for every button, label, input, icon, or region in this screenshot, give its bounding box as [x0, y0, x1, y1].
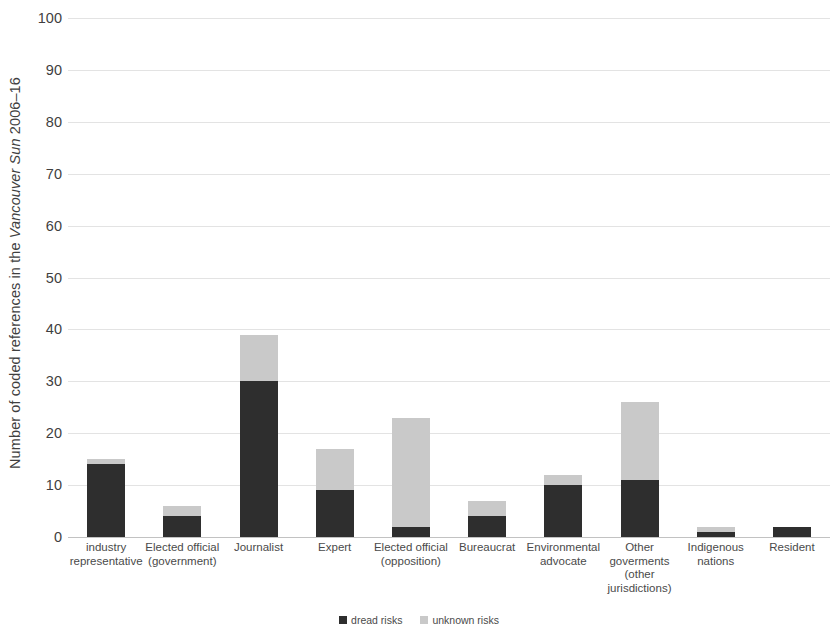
- y-tick-label: 20: [32, 425, 62, 441]
- bar-column: [144, 18, 220, 537]
- legend-item: dread risks: [339, 614, 402, 626]
- x-tick-label: Journalist: [220, 541, 296, 555]
- bar-segment-dread-risks: [621, 480, 659, 537]
- bar-column: [601, 18, 677, 537]
- bar-column: [220, 18, 296, 537]
- y-tick-label: 90: [32, 62, 62, 78]
- y-tick-label: 60: [32, 218, 62, 234]
- bar-stack: [544, 475, 582, 537]
- chart-legend: dread risksunknown risks: [0, 614, 838, 626]
- y-axis-title-text: Number of coded references in the Vancou…: [7, 77, 23, 469]
- bar-segment-dread-risks: [697, 532, 735, 537]
- stacked-bar-chart: Number of coded references in the Vancou…: [0, 0, 838, 637]
- legend-swatch-icon: [420, 616, 428, 624]
- bar-stack: [392, 418, 430, 537]
- x-tick-label: Resident: [754, 541, 830, 555]
- bar-stack: [240, 335, 278, 537]
- legend-item: unknown risks: [420, 614, 499, 626]
- bar-segment-dread-risks: [87, 464, 125, 537]
- bar-segment-unknown-risks: [163, 506, 201, 516]
- bar-series-container: [68, 18, 830, 537]
- y-tick-label: 30: [32, 373, 62, 389]
- x-tick-label: Other goverments (other jurisdictions): [601, 541, 677, 595]
- y-tick-label: 70: [32, 166, 62, 182]
- x-tick-label: industry representative: [68, 541, 144, 568]
- bar-column: [525, 18, 601, 537]
- bar-column: [68, 18, 144, 537]
- bar-segment-unknown-risks: [468, 501, 506, 517]
- bar-column: [449, 18, 525, 537]
- x-axis-tick-labels: industry representativeElected official …: [68, 541, 830, 611]
- bar-stack: [87, 459, 125, 537]
- bar-segment-dread-risks: [544, 485, 582, 537]
- y-axis-title-suffix: 2006–16: [7, 77, 23, 138]
- bar-segment-dread-risks: [773, 527, 811, 537]
- bar-stack: [316, 449, 354, 537]
- bar-column: [678, 18, 754, 537]
- bar-segment-unknown-risks: [316, 449, 354, 491]
- y-tick-label: 50: [32, 270, 62, 286]
- bar-stack: [621, 402, 659, 537]
- bar-stack: [697, 527, 735, 537]
- bar-column: [373, 18, 449, 537]
- bar-segment-dread-risks: [468, 516, 506, 537]
- y-tick-label: 0: [32, 529, 62, 545]
- y-tick-label: 100: [32, 10, 62, 26]
- x-tick-label: Expert: [297, 541, 373, 555]
- y-tick-label: 10: [32, 477, 62, 493]
- bar-segment-unknown-risks: [392, 418, 430, 527]
- legend-label: dread risks: [351, 614, 402, 626]
- bar-column: [297, 18, 373, 537]
- bar-stack: [468, 501, 506, 537]
- y-tick-label: 40: [32, 321, 62, 337]
- bar-segment-dread-risks: [316, 490, 354, 537]
- bar-segment-unknown-risks: [621, 402, 659, 480]
- x-tick-label: Elected official (opposition): [373, 541, 449, 568]
- y-axis-title-prefix: Number of coded references in the: [7, 238, 23, 469]
- bar-segment-dread-risks: [163, 516, 201, 537]
- bar-stack: [163, 506, 201, 537]
- x-tick-label: Environmental advocate: [525, 541, 601, 568]
- y-axis-title-italic: Vancouver Sun: [7, 138, 23, 238]
- bar-segment-unknown-risks: [240, 335, 278, 382]
- axis-baseline: [68, 537, 830, 538]
- bar-segment-dread-risks: [240, 381, 278, 537]
- x-tick-label: Elected official (government): [144, 541, 220, 568]
- y-tick-label: 80: [32, 114, 62, 130]
- legend-swatch-icon: [339, 616, 347, 624]
- bar-segment-unknown-risks: [544, 475, 582, 485]
- bar-column: [754, 18, 830, 537]
- x-tick-label: Indigenous nations: [678, 541, 754, 568]
- bar-stack: [773, 527, 811, 537]
- legend-label: unknown risks: [432, 614, 499, 626]
- y-axis-tick-labels: 0102030405060708090100: [26, 18, 62, 537]
- bar-segment-dread-risks: [392, 527, 430, 537]
- x-tick-label: Bureaucrat: [449, 541, 525, 555]
